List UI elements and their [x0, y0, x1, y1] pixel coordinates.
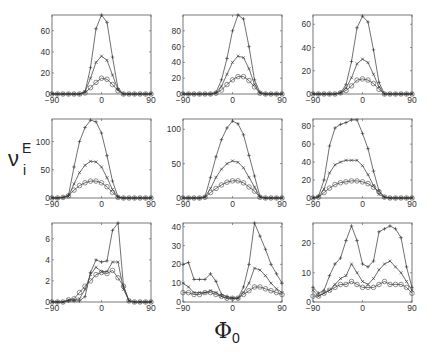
- cross-marker: [372, 73, 375, 76]
- plus-marker: [350, 60, 354, 64]
- cross-marker: [339, 277, 342, 280]
- cross-marker: [378, 268, 381, 271]
- subplot-r2c1: −90090050100: [36, 118, 156, 209]
- plus-marker: [383, 227, 387, 231]
- plus-marker: [394, 227, 398, 231]
- y-axis-label-symbol: ν: [8, 146, 19, 171]
- plus-marker: [242, 133, 246, 137]
- cross-marker: [106, 59, 109, 62]
- plus-marker: [344, 121, 348, 125]
- y-tick-label: 50: [172, 159, 182, 169]
- cross-marker: [187, 285, 190, 288]
- y-tick-label: 20: [302, 175, 312, 185]
- y-tick-label: 30: [172, 241, 182, 251]
- y-tick-label: 10: [172, 278, 182, 288]
- y-tick-label: 40: [172, 57, 182, 67]
- subplot-r1c2: −90090020406080: [172, 13, 287, 105]
- cross-marker: [95, 266, 98, 269]
- plus-marker: [269, 263, 273, 267]
- plus-marker: [253, 174, 257, 178]
- y-tick-label: 10: [302, 268, 312, 278]
- cross-marker: [405, 280, 408, 283]
- cross-marker: [361, 164, 364, 167]
- x-tick-label: 0: [99, 199, 104, 209]
- y-tick-label: 40: [41, 47, 51, 57]
- cross-marker: [78, 171, 81, 174]
- subplot-r3c1: −900900246: [45, 221, 156, 313]
- plus-marker: [388, 224, 392, 228]
- plus-marker: [322, 178, 326, 182]
- plus-marker: [372, 48, 376, 52]
- cross-marker: [356, 62, 359, 65]
- plus-marker: [399, 236, 403, 240]
- subplot-r2c3: −90090020406080: [302, 118, 417, 209]
- y-tick-label: 6: [45, 234, 50, 244]
- y-tick-label: 20: [41, 68, 51, 78]
- y-tick-label: 100: [36, 137, 50, 147]
- axes-frame: [52, 15, 151, 94]
- cross-marker: [226, 73, 229, 76]
- cross-marker: [215, 176, 218, 179]
- series-line-cross: [52, 56, 151, 94]
- cross-marker: [389, 260, 392, 263]
- subplot-r1c1: −900900204060: [41, 13, 156, 105]
- x-tick-label: 0: [360, 199, 365, 209]
- cross-marker: [350, 76, 353, 79]
- y-axis-label: ν E i: [8, 146, 19, 172]
- plus-marker: [339, 123, 343, 127]
- plus-marker: [333, 126, 337, 130]
- plus-marker: [361, 132, 365, 136]
- y-tick-label: 20: [302, 238, 312, 248]
- cross-marker: [231, 61, 234, 64]
- y-tick-label: 60: [302, 19, 312, 29]
- plus-marker: [355, 239, 359, 243]
- cross-marker: [372, 277, 375, 280]
- y-axis-label-superscript: E: [22, 140, 31, 156]
- y-tick-label: 20: [172, 73, 182, 83]
- x-tick-label: 0: [99, 303, 104, 313]
- series-line-circle: [183, 77, 282, 94]
- cross-marker: [367, 61, 370, 64]
- subplot-grid: −900900204060−90090020406080−90090020406…: [0, 0, 428, 354]
- cross-marker: [345, 274, 348, 277]
- y-tick-label: 40: [302, 43, 312, 53]
- cross-marker: [350, 262, 353, 265]
- y-tick-label: 2: [45, 276, 50, 286]
- plus-marker: [94, 27, 98, 31]
- cross-marker: [270, 282, 273, 285]
- cross-marker: [242, 166, 245, 169]
- plus-marker: [220, 78, 224, 82]
- plus-marker: [72, 165, 76, 169]
- cross-marker: [378, 193, 381, 196]
- plus-marker: [111, 179, 115, 183]
- plus-marker: [247, 154, 251, 158]
- x-tick-label: 0: [230, 95, 235, 105]
- cross-marker: [84, 164, 87, 167]
- y-tick-label: 80: [302, 121, 312, 131]
- x-tick-label: 90: [407, 303, 417, 313]
- cross-marker: [209, 187, 212, 190]
- plus-marker: [220, 138, 224, 142]
- cross-marker: [394, 265, 397, 268]
- cross-marker: [248, 176, 251, 179]
- plus-marker: [236, 122, 240, 126]
- y-tick-label: 60: [172, 42, 182, 52]
- plus-marker: [328, 144, 332, 148]
- cross-marker: [356, 271, 359, 274]
- plus-marker: [247, 263, 251, 267]
- plus-marker: [344, 239, 348, 243]
- plus-marker: [242, 285, 246, 289]
- subplot-r1c3: −900900204060: [302, 14, 417, 105]
- plus-marker: [209, 176, 213, 180]
- plus-marker: [361, 262, 365, 266]
- cross-marker: [400, 271, 403, 274]
- plus-marker: [372, 169, 376, 173]
- x-axis-label-subscript: 0: [232, 330, 240, 346]
- cross-marker: [259, 269, 262, 272]
- series-line-circle: [52, 270, 151, 302]
- cross-marker: [383, 262, 386, 265]
- cross-marker: [264, 274, 267, 277]
- y-tick-label: 4: [45, 255, 50, 265]
- cross-marker: [226, 162, 229, 165]
- plus-marker: [214, 155, 218, 159]
